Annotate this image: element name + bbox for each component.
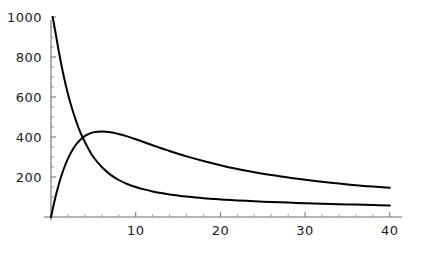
x-tick-label: 20 xyxy=(212,223,230,238)
y-tick-label: 800 xyxy=(16,50,42,65)
y-tick-label: 600 xyxy=(16,90,42,105)
x-tick-label: 10 xyxy=(127,223,145,238)
x-tick-label: 40 xyxy=(381,223,399,238)
y-tick-label: 200 xyxy=(16,170,42,185)
plot-canvas: 2004006008001000 10203040 xyxy=(0,0,422,255)
y-tick-label: 1000 xyxy=(7,10,42,25)
y-tick-label: 400 xyxy=(16,130,42,145)
x-tick-label: 30 xyxy=(296,223,314,238)
chart-figure: 2004006008001000 10203040 xyxy=(0,0,422,255)
